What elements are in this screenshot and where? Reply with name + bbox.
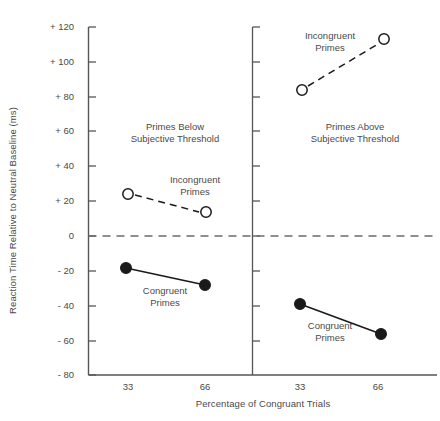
chart-figure: Reaction Time Relative to Neutral Baseli… <box>0 0 440 421</box>
divider-ticks <box>253 27 261 341</box>
point-right-incongruent-66 <box>379 34 389 44</box>
point-right-congruent-66 <box>376 329 387 340</box>
point-right-incongruent-33 <box>297 85 307 95</box>
y-axis-ticks <box>89 27 97 375</box>
line-right-incongruent <box>308 44 378 86</box>
line-right-congruent <box>300 304 381 334</box>
point-left-incongruent-66 <box>201 207 211 217</box>
line-left-incongruent <box>135 195 199 212</box>
line-left-congruent <box>126 268 205 285</box>
plot-canvas <box>0 0 440 421</box>
point-left-incongruent-33 <box>123 189 133 199</box>
point-left-congruent-66 <box>200 280 211 291</box>
point-right-congruent-33 <box>295 299 306 310</box>
point-left-congruent-33 <box>121 263 132 274</box>
